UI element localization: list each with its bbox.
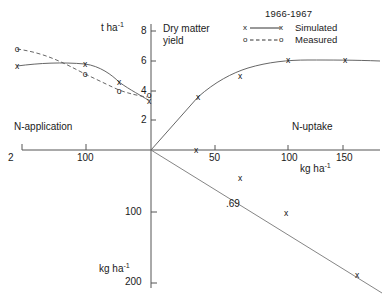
y-tick-2: 2 (141, 115, 147, 125)
svg-text:x: x (284, 208, 289, 218)
right-tick-150: 150 (336, 153, 353, 163)
y-axis-title-line1: Dry matter (163, 24, 210, 34)
marker-group-simulated-upper-left: x x x x (15, 59, 152, 106)
right-tick-50: 50 (209, 153, 220, 163)
legend-marker-x-left: x (243, 23, 247, 32)
right-tick-100: 100 (281, 153, 298, 163)
legend-entry-measured: o o Measured (243, 34, 312, 46)
slope-annotation: .69 (226, 199, 240, 209)
figure-canvas: x x x x o o o o x x x x x x x x t ha-1 D (0, 0, 389, 296)
left-tick-2: 2 (8, 153, 14, 163)
svg-text:o: o (147, 90, 152, 100)
y-axis-lower-ticks (151, 212, 157, 283)
right-axis-unit-label: kg ha-1 (300, 164, 331, 174)
uptake-line-lower-right (151, 150, 382, 293)
x-axis-right-ticks (215, 145, 343, 150)
legend-line-dashed (250, 34, 280, 46)
legend-entry-simulated: x x Simulated (243, 22, 312, 34)
legend-year-range: 1966-1967 (265, 8, 312, 19)
y-tick-4: 4 (141, 86, 147, 96)
left-tick-100: 100 (77, 153, 94, 163)
y-axis-title-line2: yield (163, 36, 184, 46)
y-axis-upper-ticks (151, 31, 156, 120)
y-tick-8: 8 (141, 26, 147, 36)
x-axis-left-ticks (22, 144, 86, 150)
right-axis-title: N-uptake (292, 122, 333, 132)
down-axis-unit-label: kg ha-1 (99, 264, 130, 274)
svg-text:x: x (286, 55, 291, 65)
marker-group-simulated-lower-right: x x x x (194, 145, 360, 280)
legend-label-measured: Measured (295, 34, 337, 45)
legend-label-simulated: Simulated (295, 22, 337, 33)
legend-line-solid (250, 22, 280, 34)
svg-text:x: x (238, 173, 243, 183)
lower-tick-100: 100 (125, 207, 142, 217)
left-axis-title: N-application (14, 122, 72, 132)
legend-marker-o-right: o (279, 35, 283, 44)
svg-text:o: o (117, 86, 122, 96)
marker-group-simulated-upper-right: x x x x (196, 55, 348, 102)
svg-text:x: x (238, 71, 243, 81)
marker-group-measured-upper-left: o o o o (15, 44, 152, 100)
legend-marker-x-right: x (279, 23, 283, 32)
chart-legend: 1966-1967 x x Simulated o o Measured (243, 8, 312, 46)
legend-marker-o-left: o (243, 35, 247, 44)
y-tick-6: 6 (141, 56, 147, 66)
lower-tick-200: 200 (125, 277, 142, 287)
svg-text:x: x (196, 92, 201, 102)
svg-text:o: o (83, 69, 88, 79)
svg-text:o: o (15, 44, 20, 54)
dry-matter-unit-label: t ha-1 (101, 23, 124, 33)
simulated-curve-upper-right (151, 60, 380, 150)
